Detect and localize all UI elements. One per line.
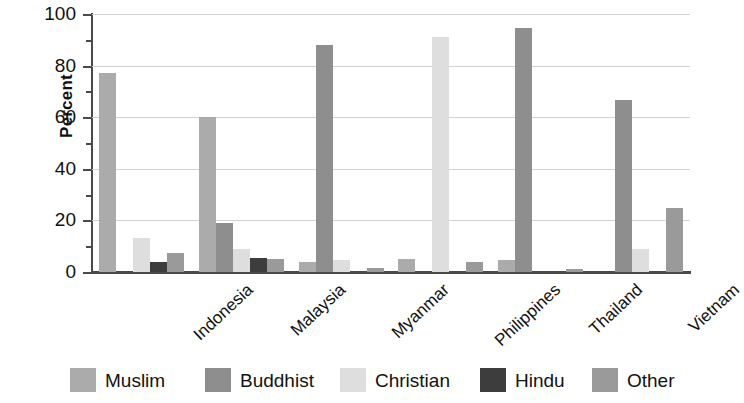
x-axis-labels: IndonesiaMalaysiaMyanmarPhilippinesThail… (92, 278, 690, 342)
x-axis-label: Myanmar (388, 280, 453, 343)
y-axis-tick (83, 14, 92, 16)
bar (167, 253, 184, 272)
y-axis-tick-label: 60 (16, 107, 76, 126)
bar (566, 269, 583, 272)
legend-item[interactable]: Other (592, 368, 675, 392)
y-axis-tick-label: 0 (16, 262, 76, 281)
bar (216, 223, 233, 272)
y-axis-tick-label: 20 (16, 210, 76, 229)
bar (150, 262, 167, 272)
y-axis-tick-label: 80 (16, 56, 76, 75)
legend-item[interactable]: Buddhist (205, 368, 314, 392)
bar-group (590, 14, 690, 272)
bar (367, 268, 384, 272)
y-axis-tick (83, 272, 92, 274)
legend-item[interactable]: Christian (340, 368, 450, 392)
bar-group (491, 14, 591, 272)
legend-label: Hindu (515, 371, 565, 390)
legend-swatch-icon (205, 368, 231, 392)
y-axis-tick-label: 40 (16, 159, 76, 178)
plot-area: 020406080100 (92, 14, 690, 272)
x-axis-label: Thailand (586, 280, 647, 339)
bar (233, 249, 250, 272)
bar (666, 208, 683, 272)
bar (299, 262, 316, 272)
bar-group (92, 14, 192, 272)
legend-swatch-icon (70, 368, 96, 392)
bar (267, 259, 284, 272)
bar (615, 100, 632, 272)
bar-group (291, 14, 391, 272)
legend-swatch-icon (592, 368, 618, 392)
plot-inner: 020406080100 (92, 14, 690, 272)
bar (398, 259, 415, 272)
bar (99, 73, 116, 272)
y-axis-tick (83, 117, 92, 119)
x-axis-label: Vietnam (685, 280, 744, 337)
y-axis-tick (83, 169, 92, 171)
bar (432, 37, 449, 272)
bar-group (391, 14, 491, 272)
legend-label: Other (627, 371, 675, 390)
y-axis-tick (83, 220, 92, 222)
y-axis-tick (83, 66, 92, 68)
bar-group (192, 14, 292, 272)
bar (199, 117, 216, 272)
bar (632, 249, 649, 272)
bar (466, 262, 483, 272)
x-axis-label: Indonesia (190, 280, 258, 345)
legend-swatch-icon (480, 368, 506, 392)
legend-item[interactable]: Muslim (70, 368, 165, 392)
bar (498, 260, 515, 272)
legend-label: Christian (375, 371, 450, 390)
bar (333, 260, 350, 272)
legend-item[interactable]: Hindu (480, 368, 565, 392)
bar (250, 258, 267, 272)
x-axis-label: Philippines (491, 280, 565, 351)
y-axis-tick-label: 100 (16, 4, 76, 23)
legend-label: Muslim (105, 371, 165, 390)
bar (515, 28, 532, 272)
bar (133, 238, 150, 272)
legend-label: Buddhist (240, 371, 314, 390)
x-axis-label: Malaysia (287, 280, 350, 340)
bar (316, 45, 333, 272)
legend-swatch-icon (340, 368, 366, 392)
chart-legend: MuslimBuddhistChristianHinduOther (0, 364, 702, 400)
